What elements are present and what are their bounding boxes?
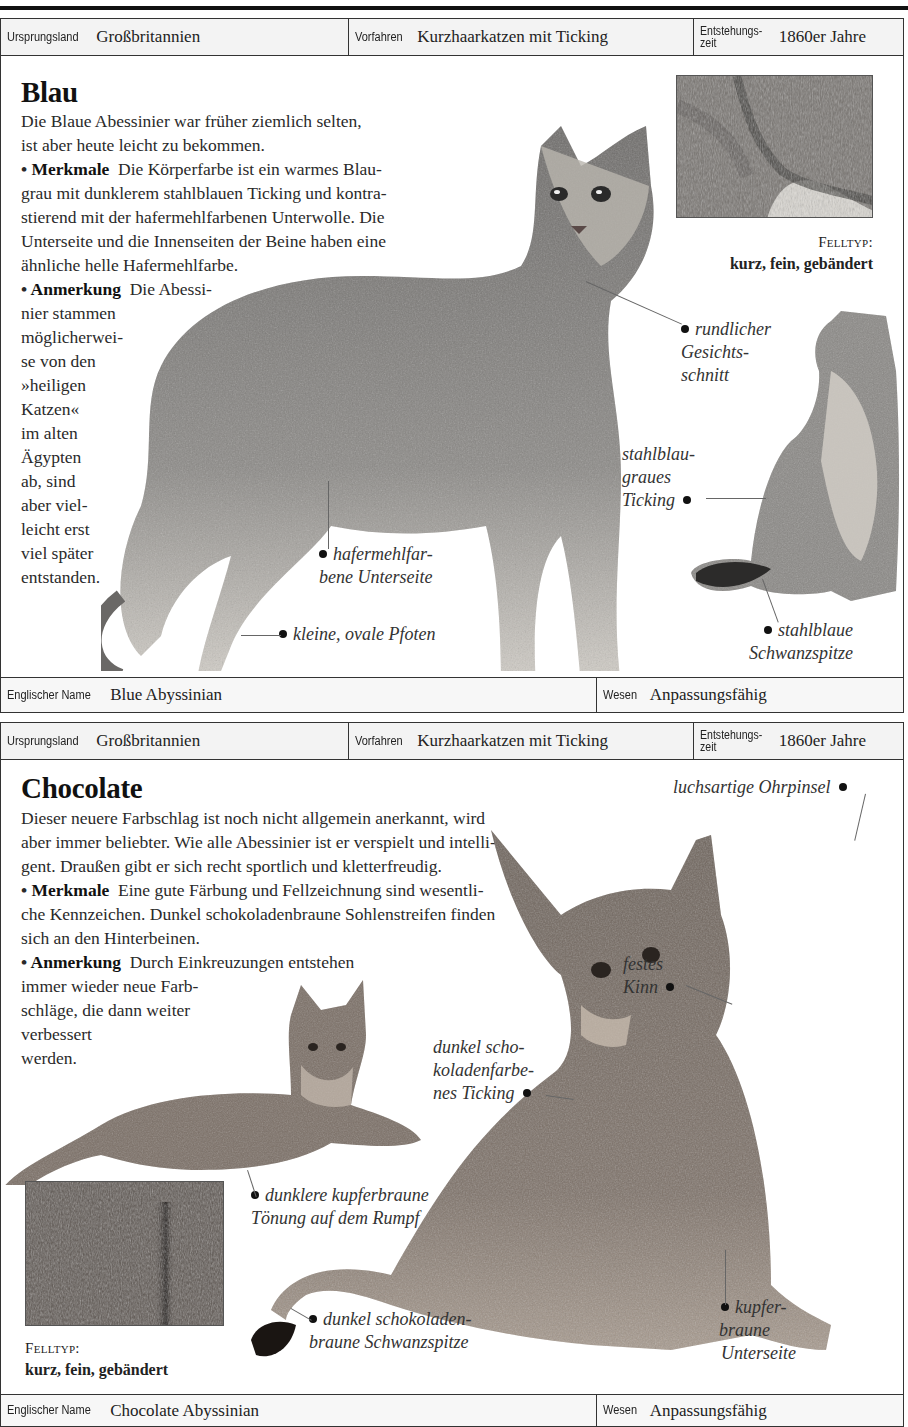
origin-value: Großbritannien: [96, 27, 200, 47]
pointer-dot-icon: [764, 626, 772, 634]
features-label: Merkmale: [32, 880, 110, 900]
text-line: bene Unterseite: [319, 566, 433, 589]
origin-cell: Ursprungsland Großbritannien: [1, 723, 349, 759]
text-line: schnitt: [681, 364, 771, 387]
origin-cell: Ursprungsland Großbritannien: [1, 19, 349, 55]
blau-footer-bar: Englischer Name Blue Abyssinian Wesen An…: [0, 677, 904, 713]
annotation-underside: kupfer- braune Unterseite: [721, 1296, 796, 1365]
text-line: luchsartige Ohrpinsel: [673, 777, 831, 797]
english-name-cell: Englischer Name Chocolate Abyssinian: [1, 1395, 597, 1426]
origin-value: Großbritannien: [96, 731, 200, 751]
origin-label: Ursprungsland: [7, 31, 79, 44]
text-line: Schwanzspitze: [749, 642, 853, 665]
chocolate-abyssinian-sitting-photo: [251, 805, 904, 1395]
text-line: koladenfarbe-: [433, 1059, 534, 1082]
chocolate-content: Chocolate Dieser neuere Farbschlag ist n…: [0, 760, 904, 1396]
coat-type: Felltyp: kurz, fein, gebändert: [730, 232, 873, 274]
nature-cell: Wesen Anpassungsfähig: [597, 1395, 903, 1426]
coat-type-label: Felltyp:: [730, 232, 873, 253]
breed-title: Blau: [21, 76, 78, 109]
time-value: 1860er Jahre: [779, 731, 866, 751]
time-label-line2: zeit: [700, 741, 762, 753]
origin-label: Ursprungsland: [7, 735, 79, 748]
text-line: graues: [622, 466, 695, 489]
note-label: Anmerkung: [31, 952, 121, 972]
text-line: dunkel scho-: [433, 1036, 534, 1059]
text-line: stahlblau-: [622, 443, 695, 466]
time-label-line2: zeit: [700, 37, 762, 49]
annotation-ticking: stahlblau- graues Ticking: [622, 443, 695, 512]
leader-line: [706, 498, 766, 499]
text-line: stahlblaue: [778, 620, 853, 640]
annotation-chin: festes Kinn: [623, 953, 674, 999]
time-cell: Entstehungs- zeit 1860er Jahre: [694, 19, 903, 55]
annotation-tail: dunkel schokoladen- braune Schwanzspitze: [309, 1308, 471, 1354]
blau-info-bar: Ursprungsland Großbritannien Vorfahren K…: [0, 18, 904, 56]
english-name-value: Chocolate Abyssinian: [110, 1401, 259, 1421]
ancestors-value: Kurzhaarkatzen mit Ticking: [417, 27, 608, 47]
annotation-tail: stahlblaue Schwanzspitze: [749, 619, 853, 665]
pointer-dot-icon: [839, 783, 847, 791]
blau-content: Blau Die Blaue Abessinier war früher zie…: [0, 56, 904, 677]
time-label: Entstehungs- zeit: [700, 25, 762, 49]
time-cell: Entstehungs- zeit 1860er Jahre: [694, 723, 903, 759]
time-label: Entstehungs- zeit: [700, 729, 762, 753]
pointer-dot-icon: [681, 325, 689, 333]
text-line: braune Schwanzspitze: [309, 1331, 471, 1354]
annotation-ear-tufts: luchsartige Ohrpinsel: [673, 776, 847, 799]
nature-cell: Wesen Anpassungsfähig: [597, 678, 903, 712]
annotation-underside: hafermehlfar- bene Unterseite: [319, 543, 433, 589]
text-line: dunklere kupferbraune: [265, 1185, 429, 1205]
coat-type-value: kurz, fein, gebändert: [25, 1359, 168, 1380]
english-name-label: Englischer Name: [7, 689, 91, 702]
text-line: Gesichts-: [681, 341, 771, 364]
chocolate-info-bar: Ursprungsland Großbritannien Vorfahren K…: [0, 722, 904, 760]
annotation-ticking: dunkel scho- koladenfarbe- nes Ticking: [433, 1036, 534, 1105]
text-line: braune: [719, 1319, 796, 1342]
pointer-dot-icon: [683, 496, 691, 504]
text-line: rundlicher: [695, 319, 771, 339]
text-line: kleine, ovale Pfoten: [293, 624, 435, 644]
fur-swatch-image: [25, 1181, 224, 1326]
leader-line: [725, 1250, 726, 1305]
text-line: dunkel schokoladen-: [323, 1309, 471, 1329]
leader-line: [328, 481, 329, 549]
text-line: Kinn: [623, 977, 658, 997]
features-label: Merkmale: [32, 159, 110, 179]
text-line: hafermehlfar-: [333, 544, 433, 564]
nature-label: Wesen: [603, 1404, 637, 1417]
ancestors-label: Vorfahren: [355, 735, 403, 748]
text-line: Ticking: [622, 490, 675, 510]
ancestors-cell: Vorfahren Kurzhaarkatzen mit Ticking: [349, 723, 694, 759]
pointer-dot-icon: [523, 1089, 531, 1097]
ancestors-label: Vorfahren: [355, 31, 403, 44]
text-line: Unterseite: [721, 1342, 796, 1365]
english-name-label: Englischer Name: [7, 1404, 91, 1417]
english-name-value: Blue Abyssinian: [110, 685, 222, 705]
text-line: Tönung auf dem Rumpf: [251, 1207, 429, 1230]
top-rule: [0, 6, 908, 10]
english-name-cell: Englischer Name Blue Abyssinian: [1, 678, 597, 712]
text-line: kupfer-: [735, 1297, 787, 1317]
fur-swatch-image: [676, 75, 873, 218]
coat-type-value: kurz, fein, gebändert: [730, 253, 873, 274]
nature-label: Wesen: [603, 689, 637, 702]
time-value: 1860er Jahre: [779, 27, 866, 47]
breed-title: Chocolate: [21, 772, 142, 805]
annotation-face: rundlicher Gesichts- schnitt: [681, 318, 771, 387]
text-line: festes: [623, 953, 674, 976]
coat-type: Felltyp: kurz, fein, gebändert: [25, 1338, 168, 1380]
coat-type-label: Felltyp:: [25, 1338, 168, 1359]
annotation-paws: kleine, ovale Pfoten: [279, 623, 435, 646]
text-line: nes Ticking: [433, 1083, 515, 1103]
ancestors-cell: Vorfahren Kurzhaarkatzen mit Ticking: [349, 19, 694, 55]
blue-abyssinian-standing-photo: [101, 126, 661, 671]
ancestors-value: Kurzhaarkatzen mit Ticking: [417, 731, 608, 751]
nature-value: Anpassungsfähig: [650, 685, 767, 705]
pointer-dot-icon: [319, 550, 327, 558]
nature-value: Anpassungsfähig: [650, 1401, 767, 1421]
annotation-body-tone: dunklere kupferbraune Tönung auf dem Rum…: [251, 1184, 429, 1230]
pointer-dot-icon: [666, 983, 674, 991]
leader-line: [241, 635, 281, 636]
chocolate-footer-bar: Englischer Name Chocolate Abyssinian Wes…: [0, 1394, 904, 1427]
